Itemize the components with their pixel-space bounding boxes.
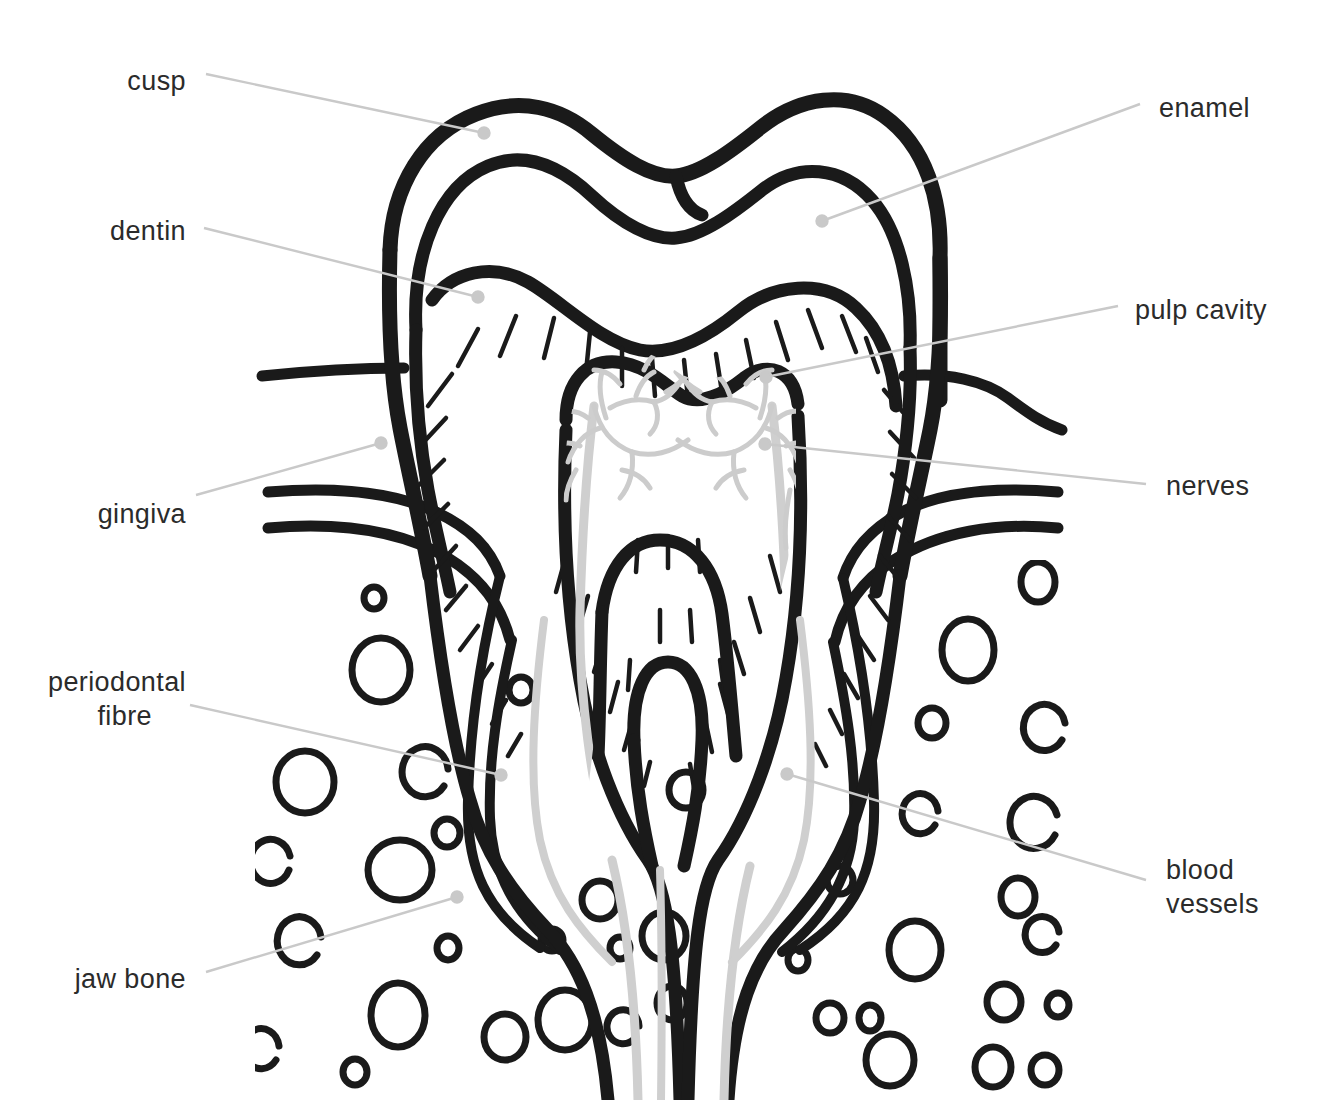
- nerve-in-root-canal: [612, 860, 638, 1100]
- bone-cavity-partial: [1023, 704, 1065, 750]
- bone-cavity: [484, 1014, 526, 1060]
- leader-dot-cusp: [479, 128, 490, 139]
- nerve-bundle-center: [660, 870, 662, 1100]
- bone-cavity: [276, 751, 334, 813]
- bone-cavity: [509, 677, 533, 703]
- bone-cavity: [918, 708, 946, 738]
- leader-nerves: [765, 444, 1146, 484]
- cusp-notch: [676, 176, 702, 215]
- leader-dentin: [204, 228, 478, 297]
- label-jaw-bone: jaw bone: [74, 964, 186, 994]
- label-periodontal-fibre-line1: periodontal: [48, 667, 186, 697]
- bone-cavity: [434, 819, 460, 847]
- leader-jaw-bone: [206, 897, 457, 972]
- leader-dot-periodontal-fibre: [496, 770, 507, 781]
- bone-cavity: [582, 881, 618, 919]
- label-enamel: enamel: [1159, 93, 1250, 123]
- leader-dot-gingiva: [376, 438, 387, 449]
- bone-cavity-partial: [251, 839, 290, 883]
- bone-cavity: [1021, 562, 1055, 602]
- label-dentin: dentin: [110, 216, 186, 246]
- leader-dot-nerves: [760, 439, 771, 450]
- bone-cavity: [859, 1005, 881, 1031]
- label-nerves: nerves: [1166, 471, 1249, 501]
- labels-right: enamel pulp cavity nerves blood vessels: [1135, 93, 1267, 919]
- bone-cavity: [816, 1003, 844, 1033]
- bone-cavity: [1001, 878, 1035, 916]
- label-blood-vessels-line1: blood: [1166, 855, 1234, 885]
- jaw-bone-region: [243, 562, 1069, 1087]
- enamel-inner-outline: [416, 160, 911, 348]
- bone-cavity-partial: [1010, 796, 1057, 848]
- bone-cavity: [1047, 993, 1069, 1017]
- bone-cavity: [343, 1059, 367, 1085]
- diagram-canvas: cusp dentin gingiva periodontal fibre ja…: [0, 0, 1328, 1100]
- label-gingiva: gingiva: [98, 499, 187, 529]
- bone-cavity: [942, 619, 994, 681]
- leader-enamel: [822, 104, 1140, 221]
- label-pulp-cavity: pulp cavity: [1135, 295, 1267, 325]
- label-periodontal-fibre-line2: fibre: [97, 701, 152, 731]
- gingiva-upper-left-line: [262, 368, 404, 376]
- bone-cavity: [987, 984, 1021, 1020]
- bone-cavity-partial: [1025, 917, 1059, 953]
- pulp-horn-arch: [602, 540, 736, 756]
- leader-dot-jaw-bone: [452, 892, 463, 903]
- leader-dot-pulp-cavity: [761, 372, 772, 383]
- bone-cavity: [437, 936, 459, 960]
- leader-dot-dentin: [473, 292, 484, 303]
- label-cusp: cusp: [127, 66, 186, 96]
- bone-cavity: [975, 1047, 1011, 1087]
- bone-cavity: [352, 638, 410, 702]
- bone-cavity: [1031, 1055, 1059, 1085]
- bone-cavity: [866, 1034, 914, 1086]
- leader-cusp: [206, 74, 484, 133]
- bone-cavity: [364, 587, 384, 609]
- bone-cavity: [371, 983, 425, 1047]
- labels-left: cusp dentin gingiva periodontal fibre ja…: [48, 66, 187, 994]
- bone-cavity: [889, 921, 941, 979]
- label-blood-vessels-line2: vessels: [1166, 889, 1259, 919]
- tooth-cross-section-diagram: cusp dentin gingiva periodontal fibre ja…: [0, 0, 1328, 1100]
- leader-dot-blood-vessels: [782, 769, 793, 780]
- pulp-horn-arch-left: [598, 612, 602, 756]
- bone-cavity: [368, 840, 432, 900]
- leader-dot-enamel: [817, 216, 828, 227]
- bone-cavity-partial: [243, 1029, 279, 1069]
